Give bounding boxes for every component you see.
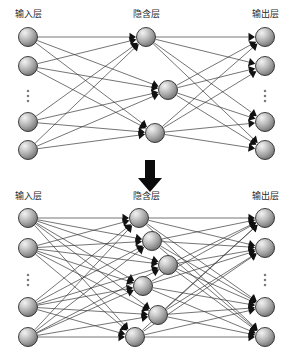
neuron-sphere xyxy=(19,328,38,347)
neuron-sphere xyxy=(256,209,275,228)
neuron-node xyxy=(256,28,275,47)
connection-line xyxy=(162,221,249,239)
neuron-node xyxy=(134,277,153,296)
ellipsis-dot xyxy=(27,100,29,102)
ellipsis-dot xyxy=(27,95,29,97)
neuron-sphere xyxy=(19,57,38,76)
neuron-node xyxy=(256,298,275,317)
connection-line xyxy=(177,95,251,141)
neuron-sphere xyxy=(256,57,275,76)
layer-label-bottom-0: 输入层 xyxy=(15,190,42,201)
neuron-node xyxy=(19,328,38,347)
connection-line xyxy=(37,97,153,147)
neuron-sphere xyxy=(19,298,38,317)
neuron-node xyxy=(256,239,275,258)
connection-line xyxy=(38,242,136,248)
ellipsis-dot xyxy=(27,274,29,276)
ellipsis-dot xyxy=(264,90,266,92)
connection-line xyxy=(38,94,152,120)
neuron-sphere xyxy=(126,328,145,347)
neuron-sphere xyxy=(19,239,38,258)
neuron-node xyxy=(126,328,145,347)
connection-line xyxy=(38,249,152,263)
neuron-sphere xyxy=(143,232,162,251)
connection-arrowhead xyxy=(151,269,159,276)
connection-line xyxy=(178,93,250,117)
neuron-node xyxy=(19,209,38,228)
neuron-node xyxy=(19,57,38,76)
ellipsis-dot xyxy=(264,284,266,286)
ellipsis-icon xyxy=(27,274,29,286)
connection-line xyxy=(156,39,249,62)
neuron-node xyxy=(256,141,275,160)
neuron-sphere xyxy=(130,209,149,228)
neuron-node xyxy=(143,232,162,251)
ellipsis-dot xyxy=(27,90,29,92)
neuron-node xyxy=(19,28,38,47)
neuron-sphere xyxy=(256,141,275,160)
layer-label-top-2: 输出层 xyxy=(252,8,279,19)
connection-line xyxy=(177,45,251,85)
neuron-node xyxy=(256,57,275,76)
neuron-sphere xyxy=(19,209,38,228)
connection-line xyxy=(149,220,249,244)
ellipsis-dot xyxy=(264,274,266,276)
connection-line xyxy=(38,41,130,64)
neuron-sphere xyxy=(159,256,178,275)
neuron-sphere xyxy=(149,306,168,325)
neuron-node xyxy=(159,81,178,100)
connection-line xyxy=(36,228,126,300)
connection-arrowhead xyxy=(248,58,255,66)
neuron-node xyxy=(256,328,275,347)
neuron-node xyxy=(130,209,149,228)
ellipsis-dot xyxy=(264,100,266,102)
connection-line xyxy=(37,71,141,126)
connection-line xyxy=(36,251,139,331)
neuron-sphere xyxy=(19,113,38,132)
neuron-sphere xyxy=(146,124,165,143)
neuron-node xyxy=(19,298,38,317)
layer-label-top-1: 隐含层 xyxy=(133,8,160,19)
ellipsis-dot xyxy=(27,284,29,286)
connection-line xyxy=(165,135,249,148)
connection-line xyxy=(177,269,250,300)
ellipsis-dot xyxy=(264,95,266,97)
down-arrow-icon xyxy=(138,160,162,192)
neuron-node xyxy=(159,256,178,275)
ellipsis-dot xyxy=(264,279,266,281)
neuron-sphere xyxy=(19,141,38,160)
neuron-node xyxy=(149,306,168,325)
neuron-sphere xyxy=(256,239,275,258)
connection-arrowhead xyxy=(249,71,257,78)
neuron-sphere xyxy=(159,81,178,100)
neuron-node xyxy=(19,239,38,258)
diagram-canvas: 输入层隐含层输出层输入层隐含层输出层 xyxy=(0,0,291,361)
neuron-sphere xyxy=(134,277,153,296)
layer-label-top-0: 输入层 xyxy=(15,8,42,19)
neuron-node xyxy=(256,209,275,228)
connection-line xyxy=(166,257,251,310)
neuron-sphere xyxy=(256,113,275,132)
connection-line xyxy=(165,124,249,132)
ellipsis-icon xyxy=(264,90,266,102)
neuron-node xyxy=(19,141,38,160)
ellipsis-dot xyxy=(27,279,29,281)
connection-arrowhead xyxy=(249,33,256,41)
connection-arrowhead xyxy=(248,119,255,127)
connection-line xyxy=(35,48,134,143)
layer-label-bottom-1: 隐含层 xyxy=(133,190,160,201)
neuron-node xyxy=(256,113,275,132)
layer-label-bottom-2: 输出层 xyxy=(252,190,279,201)
neuron-sphere xyxy=(19,28,38,47)
neuron-sphere xyxy=(256,328,275,347)
neuron-node xyxy=(19,113,38,132)
connection-line xyxy=(37,249,138,303)
neuron-node xyxy=(146,124,165,143)
connection-line xyxy=(164,75,251,128)
connection-arrowhead xyxy=(250,44,258,51)
connection-line xyxy=(38,289,127,305)
connection-line xyxy=(38,308,142,314)
ellipsis-icon xyxy=(27,90,29,102)
neuron-sphere xyxy=(256,28,275,47)
neuron-sphere xyxy=(137,28,156,47)
